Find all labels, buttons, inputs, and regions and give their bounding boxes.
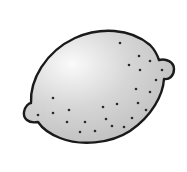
peel-dot — [52, 97, 55, 100]
peel-dot — [105, 118, 108, 121]
peel-dot — [135, 88, 138, 91]
peel-dot — [131, 117, 134, 120]
lemon-icon — [0, 0, 187, 172]
lemon-body — [24, 31, 174, 143]
peel-dot — [102, 106, 105, 109]
peel-dot — [52, 112, 55, 115]
peel-dot — [128, 64, 131, 67]
peel-dot — [94, 130, 97, 133]
peel-dot — [68, 109, 71, 112]
peel-dot — [139, 69, 142, 72]
peel-dot — [37, 114, 40, 117]
peel-dot — [161, 69, 164, 72]
peel-dot — [84, 121, 87, 124]
peel-dot — [111, 125, 114, 128]
peel-dot — [155, 79, 158, 82]
peel-dot — [149, 91, 152, 94]
peel-dot — [137, 102, 140, 105]
peel-dot — [119, 42, 122, 45]
peel-dot — [149, 60, 152, 63]
peel-dot — [116, 103, 119, 106]
lemon-illustration: Line drawing of a lemon with dotted peel… — [0, 0, 187, 172]
peel-dot — [123, 126, 126, 129]
peel-dot — [138, 55, 141, 58]
peel-dot — [79, 131, 82, 134]
peel-dot — [66, 121, 69, 124]
peel-dot — [145, 109, 148, 112]
